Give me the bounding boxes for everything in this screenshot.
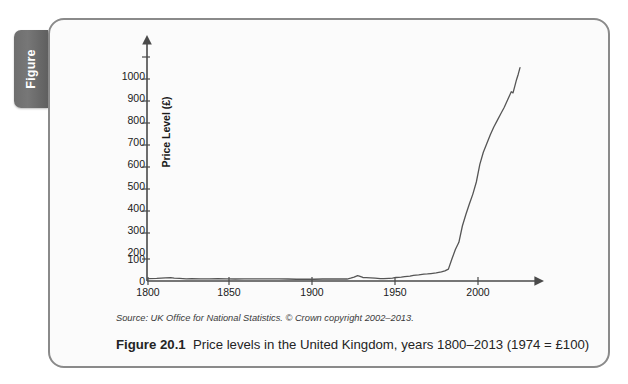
y-axis-ticks [142,57,150,259]
price-level-line [148,68,520,280]
figure-caption: Figure 20.1 Price levels in the United K… [116,337,589,352]
figure-tab: Figure [14,30,48,108]
figure-page: Figure Price Level (£) 1000 900 800 700 … [0,0,628,384]
figure-card: Price Level (£) 1000 900 800 700 600 500… [48,18,610,368]
chart-plot [50,20,612,310]
figure-caption-number: Figure 20.1 [116,337,186,352]
figure-tab-label: Figure [14,30,48,108]
figure-caption-text: Price levels in the United Kingdom, year… [193,337,589,352]
source-note: Source: UK Office for National Statistic… [116,313,414,323]
caption-spacer [186,337,193,352]
